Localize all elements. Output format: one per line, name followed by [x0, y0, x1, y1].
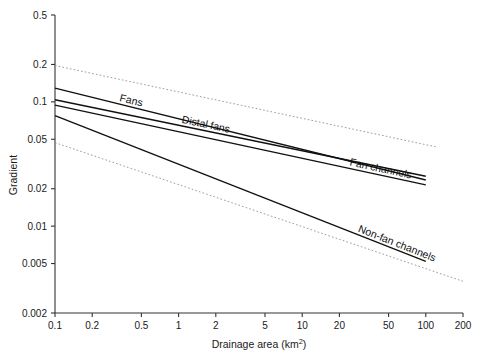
- x-tick-label: 2: [213, 320, 219, 331]
- curve-label-fans: Fans: [119, 91, 145, 108]
- x-tick-label: 20: [334, 320, 346, 331]
- curve-label-fan-channels: Fan channels: [349, 156, 413, 181]
- y-tick-label: 0.02: [28, 183, 48, 194]
- y-tick-label: 0.5: [33, 10, 47, 21]
- x-tick-label: 0.1: [48, 320, 62, 331]
- y-tick-label: 0.05: [28, 134, 48, 145]
- y-axis-ticks: 0.0020.0050.010.020.050.10.20.5: [22, 10, 55, 319]
- y-tick-label: 0.01: [28, 221, 48, 232]
- plot-axes: [55, 15, 463, 313]
- series-line-fan-channels: [55, 105, 426, 185]
- chart-container: 0.0020.0050.010.020.050.10.20.5 0.10.20.…: [0, 0, 482, 359]
- y-axis-title: Gradient: [7, 155, 19, 195]
- x-axis-title-tail: ): [303, 338, 307, 350]
- y-tick-label: 0.005: [22, 258, 47, 269]
- series-line-lower-envelope: [55, 143, 463, 282]
- x-tick-label: 100: [417, 320, 434, 331]
- x-tick-label: 1: [176, 320, 182, 331]
- x-tick-label: 5: [262, 320, 268, 331]
- x-axis-title-base: Drainage area (km: [212, 338, 299, 350]
- x-tick-label: 0.5: [134, 320, 148, 331]
- curve-label-non-fan-channels: Non-fan channels: [357, 222, 438, 263]
- x-tick-label: 50: [383, 320, 395, 331]
- x-axis-ticks: 0.10.20.5125102050100200: [48, 313, 472, 331]
- x-tick-label: 200: [455, 320, 472, 331]
- x-axis-title: Drainage area (km2): [212, 337, 307, 351]
- y-tick-label: 0.1: [33, 96, 47, 107]
- gradient-vs-drainage-area-chart: 0.0020.0050.010.020.050.10.20.5 0.10.20.…: [0, 0, 482, 359]
- x-tick-label: 0.2: [85, 320, 99, 331]
- y-tick-label: 0.2: [33, 59, 47, 70]
- x-tick-label: 10: [297, 320, 309, 331]
- y-tick-label: 0.002: [22, 308, 47, 319]
